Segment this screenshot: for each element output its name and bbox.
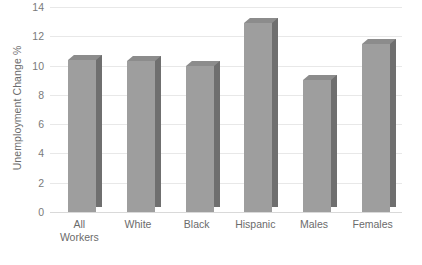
y-axis-tick-label: 0 bbox=[18, 206, 44, 218]
gridline bbox=[50, 66, 402, 67]
bar-chart: Unemployment Change % 02468101214 AllWor… bbox=[0, 0, 422, 265]
gridline bbox=[50, 153, 402, 154]
gridline bbox=[50, 212, 402, 213]
gridline bbox=[50, 95, 402, 96]
x-axis-tick-label-line: Workers bbox=[50, 231, 109, 244]
bar bbox=[362, 39, 390, 212]
bar-front-face bbox=[186, 66, 214, 212]
gridline bbox=[50, 124, 402, 125]
bar bbox=[244, 18, 272, 212]
bar-side-face bbox=[272, 18, 278, 207]
bar bbox=[186, 61, 214, 212]
bar-side-face bbox=[390, 39, 396, 207]
bar bbox=[68, 55, 96, 212]
x-axis-tick-label-line: White bbox=[125, 218, 152, 230]
gridline bbox=[50, 183, 402, 184]
gridline bbox=[50, 36, 402, 37]
bar-top-face bbox=[362, 39, 396, 44]
bar-front-face bbox=[127, 61, 155, 212]
bar-front-face bbox=[362, 44, 390, 212]
y-axis-tick-label: 12 bbox=[18, 30, 44, 42]
bar-side-face bbox=[214, 61, 220, 207]
x-axis-tick-label: AllWorkers bbox=[50, 218, 109, 244]
bar bbox=[303, 75, 331, 212]
x-axis-tick-label: White bbox=[109, 218, 168, 231]
x-axis-tick-label-line: All bbox=[73, 218, 85, 230]
bar-top-face bbox=[186, 61, 220, 66]
x-axis-tick-label-line: Hispanic bbox=[235, 218, 275, 230]
bar bbox=[127, 56, 155, 212]
bar-side-face bbox=[96, 55, 102, 207]
bar-front-face bbox=[68, 60, 96, 212]
y-axis-tick-label: 6 bbox=[18, 118, 44, 130]
y-axis-tick-label: 4 bbox=[18, 147, 44, 159]
y-axis-tick-label: 14 bbox=[18, 1, 44, 13]
gridline bbox=[50, 7, 402, 8]
y-axis-tick-label: 10 bbox=[18, 60, 44, 72]
x-axis-tick-label: Females bbox=[343, 218, 402, 231]
x-axis-tick-label-line: Females bbox=[353, 218, 393, 230]
bar-side-face bbox=[155, 56, 161, 207]
bar-front-face bbox=[303, 80, 331, 212]
y-axis-tick-labels: 02468101214 bbox=[14, 7, 44, 212]
x-axis-tick-labels: AllWorkersWhiteBlackHispanicMalesFemales bbox=[50, 218, 402, 262]
x-axis-tick-label-line: Males bbox=[300, 218, 328, 230]
x-axis-tick-label: Males bbox=[285, 218, 344, 231]
bar-side-face bbox=[331, 75, 337, 207]
y-axis-tick-label: 8 bbox=[18, 89, 44, 101]
plot-area bbox=[50, 7, 402, 212]
bar-front-face bbox=[244, 23, 272, 212]
y-axis-tick-label: 2 bbox=[18, 177, 44, 189]
x-axis-tick-label-line: Black bbox=[184, 218, 210, 230]
bar-top-face bbox=[68, 55, 102, 60]
x-axis-tick-label: Hispanic bbox=[226, 218, 285, 231]
x-axis-tick-label: Black bbox=[167, 218, 226, 231]
